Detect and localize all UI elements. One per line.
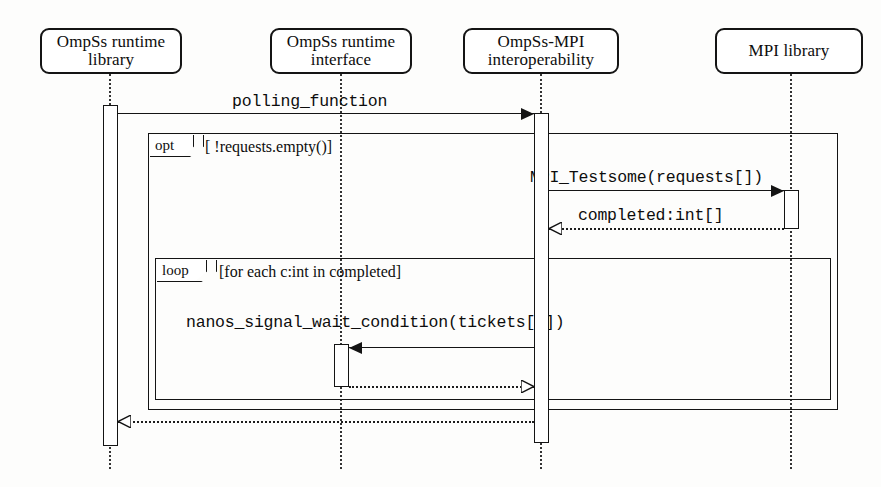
msg-polling-function-arrowhead: [521, 108, 534, 120]
lifeline-name-line2: interoperability: [488, 51, 594, 69]
msg-mpi-testsome-line: [549, 190, 784, 191]
lifeline-name-line1: OmpSs runtime: [57, 33, 166, 51]
msg-polling-function-return-line: [118, 421, 534, 423]
lifeline-head-label-mpi-library: MPI library: [749, 42, 830, 60]
lifeline-head-label-ompss-mpi-interoperability: OmpSs-MPIinteroperability: [488, 33, 594, 69]
msg-mpi-testsome-arrowhead: [771, 185, 784, 197]
msg-completed-return-arrowhead: [549, 222, 562, 235]
activation-ompss-mpi-interop: [534, 113, 549, 443]
lifeline-head-ompss-mpi-interoperability[interactable]: OmpSs-MPIinteroperability: [463, 28, 619, 74]
lifeline-name-line2: interface: [287, 51, 396, 69]
msg-polling-function-return-arrowhead: [118, 415, 131, 428]
msg-mpi-testsome-label: MPI_Testsome(requests[]): [530, 168, 763, 187]
lifeline-name-line2: library: [57, 51, 166, 69]
lifeline-head-mpi-library[interactable]: MPI library: [715, 28, 863, 74]
msg-polling-function-line: [118, 113, 534, 114]
msg-nanos-return-arrowhead: [521, 380, 534, 393]
msg-completed-return-label: completed:int[]: [578, 206, 724, 225]
loop-fragment-guard: [for each c:int in completed]: [219, 263, 401, 281]
msg-nanos-signal-wait-condition-label: nanos_signal_wait_condition(tickets[c]): [186, 313, 564, 332]
msg-completed-return-line: [549, 228, 784, 230]
lifeline-head-label-ompss-runtime-library: OmpSs runtimelibrary: [57, 33, 166, 69]
lifeline-head-ompss-runtime-library[interactable]: OmpSs runtimelibrary: [40, 28, 182, 74]
msg-nanos-return-line: [349, 386, 534, 388]
lifeline-head-label-ompss-runtime-interface: OmpSs runtimeinterface: [287, 33, 396, 69]
lifeline-name-line1: MPI library: [749, 42, 830, 60]
activation-ompss-runtime-library: [103, 105, 118, 446]
activation-mpi-library: [784, 190, 799, 229]
activation-ompss-runtime-interface: [334, 344, 349, 387]
lifeline-name-line1: OmpSs-MPI: [488, 33, 594, 51]
msg-nanos-signal-wait-condition-arrowhead: [349, 342, 362, 354]
sequence-diagram-canvas: opt[ !requests.empty()]loop[for each c:i…: [0, 0, 881, 487]
msg-polling-function-label: polling_function: [232, 92, 387, 111]
opt-fragment-guard: [ !requests.empty()]: [205, 138, 332, 156]
lifeline-head-ompss-runtime-interface[interactable]: OmpSs runtimeinterface: [270, 28, 412, 74]
lifeline-name-line1: OmpSs runtime: [287, 33, 396, 51]
msg-nanos-signal-wait-condition-line: [349, 347, 534, 348]
